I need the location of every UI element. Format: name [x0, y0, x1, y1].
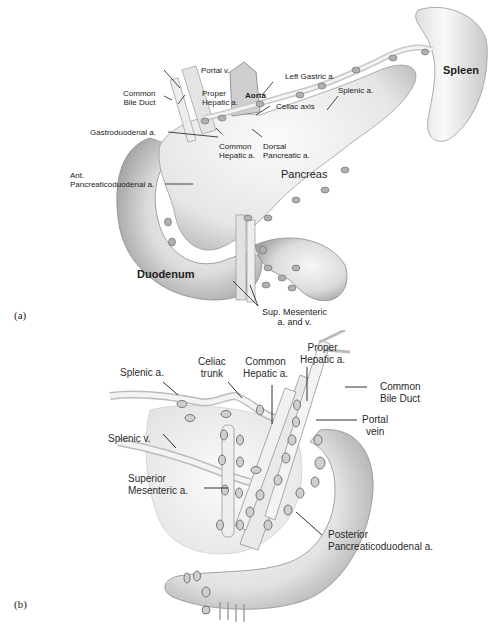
- label-sup-mesenteric: Sup. Mesenteric a. and v.: [262, 307, 327, 327]
- label-duodenum: Duodenum: [137, 268, 194, 280]
- label-portal-v: Portal v.: [201, 66, 230, 75]
- label-common-bile-duct-a: Common Bile Duct: [123, 89, 155, 107]
- label-common-hepatic-b: Common Hepatic a.: [243, 356, 288, 380]
- label-celiac-trunk: Celiac trunk: [198, 356, 226, 380]
- panel-b-pancreas-posterior-view: Splenic a. Celiac trunk Common Hepatic a…: [0, 330, 489, 641]
- smv-vessel-shape: [247, 220, 255, 302]
- label-ant-pancreaticoduodenal: Ant. Pancreaticoduodenal a.: [70, 171, 154, 189]
- label-portal-vein-b: Portal vein: [362, 414, 388, 438]
- label-splenic-v: Splenic v.: [108, 433, 151, 445]
- label-spleen: Spleen: [443, 64, 479, 76]
- label-pancreas: Pancreas: [281, 168, 327, 180]
- label-proper-hepatic-b: Proper Hepatic a.: [300, 342, 345, 366]
- label-common-hepatic-a: Common Hepatic a.: [219, 142, 255, 160]
- label-splenic-a-b: Splenic a.: [120, 367, 164, 379]
- panel-b-tag: (b): [14, 598, 27, 610]
- panel-a-pancreas-anterior-view: Spleen Pancreas Duodenum Portal v. Commo…: [0, 0, 489, 345]
- label-common-bile-duct-b: Common Bile Duct: [380, 381, 421, 405]
- label-posterior-pancreaticoduodenal: Posterior Pancreaticoduodenal a.: [328, 529, 433, 553]
- label-left-gastric: Left Gastric a.: [285, 72, 335, 81]
- sma-vessel-b: [222, 425, 234, 537]
- label-celiac-axis: Celiac axis: [276, 102, 315, 111]
- sma-vessel-shape: [236, 215, 246, 300]
- label-dorsal-pancreatic: Dorsal Pancreatic a.: [263, 142, 310, 160]
- label-superior-mesenteric: Superior Mesenteric a.: [128, 473, 188, 497]
- label-splenic-a-a: Splenic a.: [338, 86, 373, 95]
- label-gastroduodenal: Gastroduodenal a.: [90, 128, 156, 137]
- label-proper-hepatic-a: Proper Hepatic a.: [202, 89, 238, 107]
- label-aorta: Aorta: [245, 91, 266, 100]
- panel-a-tag: (a): [14, 309, 26, 321]
